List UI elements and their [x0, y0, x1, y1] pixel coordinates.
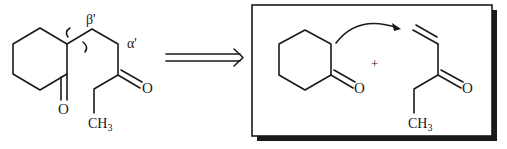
- retrosynthesis-arrow-icon: [166, 49, 243, 66]
- disconnection-mark-icon: [66, 28, 86, 52]
- target-ring-oxygen: O: [58, 101, 69, 117]
- beta-prime-label: β': [86, 12, 96, 27]
- target-chain-carbonyl-double: [121, 70, 142, 82]
- target-cyclohexane-ring: [13, 28, 67, 90]
- target-methyl-label: CH3: [88, 116, 112, 133]
- evk-oxygen: O: [462, 80, 473, 96]
- alpha-prime-label: α': [127, 36, 137, 51]
- target-ethyl-bonds: [94, 75, 118, 113]
- target-chain-carbonyl-bond: [118, 75, 140, 88]
- synthons-box: O + O CH3: [252, 5, 497, 141]
- target-chain-oxygen: O: [142, 80, 153, 96]
- target-side-chain: [67, 29, 118, 75]
- cyclohexanone-oxygen: O: [354, 80, 365, 96]
- retrosynthesis-diagram: O β' α' O CH3 O +: [0, 0, 507, 149]
- target-molecule: O β' α' O CH3: [13, 12, 153, 133]
- plus-sign: +: [371, 56, 378, 71]
